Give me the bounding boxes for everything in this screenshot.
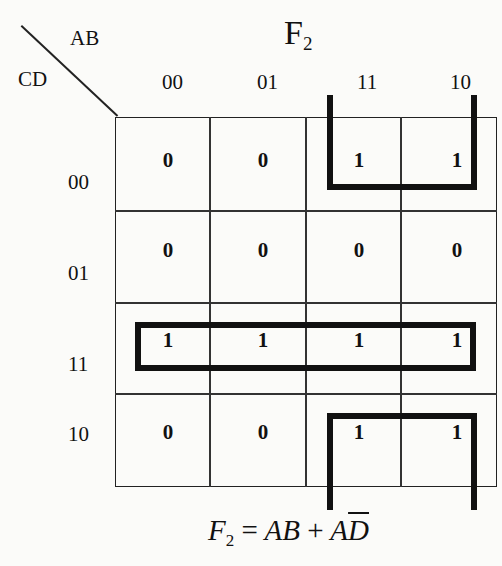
col-label-10: 10 [450,70,471,95]
cell: 0 [243,148,283,173]
cell: 0 [148,238,188,263]
cell: 0 [437,238,477,263]
ab-axis-label: AB [70,26,99,51]
cell: 0 [243,238,283,263]
row-label-01: 01 [68,261,89,286]
row-label-11: 11 [68,352,88,377]
map-title: F2 [284,14,312,55]
grid-line [115,302,497,304]
group-cd-row-box [135,322,476,371]
cell: 0 [243,420,283,445]
cell: 0 [148,148,188,173]
cell: 1 [339,148,379,173]
cd-axis-label: CD [18,67,47,92]
cell: 0 [339,238,379,263]
col-label-01: 01 [257,70,278,95]
grid-line [115,210,497,212]
cell: 0 [148,420,188,445]
col-label-11: 11 [357,70,377,95]
cell: 1 [339,420,379,445]
col-label-00: 00 [162,70,183,95]
grid-line [115,393,497,395]
row-label-00: 00 [68,170,89,195]
simplified-equation: F2 = AB + AD [208,514,369,551]
row-label-10: 10 [68,422,89,447]
